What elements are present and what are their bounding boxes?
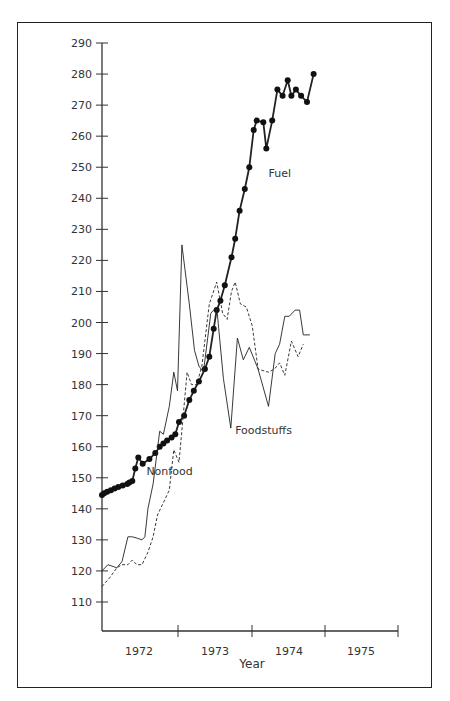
x-tick-label: 1975 <box>347 645 375 658</box>
y-tick-label: 110 <box>71 596 92 609</box>
fuel-marker <box>260 119 266 125</box>
y-tick-label: 160 <box>71 441 92 454</box>
fuel-marker <box>181 413 187 419</box>
x-axis: 1972197319741975 <box>102 625 398 658</box>
fuel-marker <box>293 87 299 93</box>
x-tick-label: 1974 <box>275 645 303 658</box>
fuel-marker <box>176 419 182 425</box>
y-tick-label: 250 <box>71 161 92 174</box>
fuel-marker <box>298 93 304 99</box>
y-tick-label: 230 <box>71 223 92 236</box>
y-tick-label: 200 <box>71 317 92 330</box>
fuel-marker <box>246 164 252 170</box>
fuel-marker <box>280 93 286 99</box>
fuel-marker <box>288 93 294 99</box>
y-tick-label: 220 <box>71 254 92 267</box>
fuel-marker <box>285 77 291 83</box>
fuel-marker <box>206 354 212 360</box>
y-tick-label: 180 <box>71 379 92 392</box>
fuel-marker <box>135 455 141 461</box>
y-axis: 1101201301401501601701801902002102202302… <box>71 37 108 631</box>
fuel-marker <box>242 186 248 192</box>
fuel-marker <box>237 208 243 214</box>
x-tick-label: 1972 <box>125 645 153 658</box>
fuel-marker <box>222 282 228 288</box>
fuel-series-label: Fuel <box>269 167 292 180</box>
fuel-marker <box>229 254 235 260</box>
fuel-marker <box>172 431 178 437</box>
line-chart: 1101201301401501601701801902002102202302… <box>0 0 450 701</box>
fuel-marker <box>232 236 238 242</box>
fuel-marker <box>132 466 138 472</box>
foodstuffs-line <box>102 245 310 571</box>
fuel-marker <box>251 127 257 133</box>
fuel-marker <box>186 397 192 403</box>
y-tick-label: 120 <box>71 565 92 578</box>
y-tick-label: 130 <box>71 534 92 547</box>
fuel-marker <box>254 118 260 124</box>
fuel-marker <box>311 71 317 77</box>
fuel-marker <box>304 99 310 105</box>
y-tick-label: 290 <box>71 37 92 50</box>
fuel-marker <box>146 456 152 462</box>
fuel-marker <box>211 326 217 332</box>
x-tick-label: 1973 <box>201 645 229 658</box>
fuel-marker <box>140 461 146 467</box>
fuel-marker <box>191 388 197 394</box>
y-tick-label: 170 <box>71 410 92 423</box>
y-tick-label: 140 <box>71 503 92 516</box>
y-tick-label: 210 <box>71 285 92 298</box>
y-tick-label: 240 <box>71 192 92 205</box>
series-layer <box>99 71 317 586</box>
fuel-marker <box>274 87 280 93</box>
fuel-marker <box>263 146 269 152</box>
y-tick-label: 260 <box>71 130 92 143</box>
y-tick-label: 280 <box>71 68 92 81</box>
x-axis-title: Year <box>238 657 264 671</box>
fuel-marker <box>129 478 135 484</box>
y-tick-label: 270 <box>71 99 92 112</box>
y-tick-label: 190 <box>71 348 92 361</box>
foodstuffs-series-label: Foodstuffs <box>235 424 292 437</box>
nonfood-series-label: Nonfood <box>146 465 192 478</box>
fuel-marker <box>269 118 275 124</box>
y-tick-label: 150 <box>71 472 92 485</box>
